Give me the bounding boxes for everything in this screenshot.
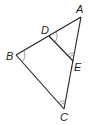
angle-mark-c-outer — [59, 101, 66, 103]
triangle-diagram: A B C D E — [0, 0, 89, 125]
label-b: B — [6, 50, 13, 62]
segment-ab — [16, 17, 81, 55]
angle-mark-d — [55, 32, 57, 42]
label-d: D — [41, 24, 49, 36]
angle-mark-b — [22, 51, 25, 62]
label-e: E — [74, 61, 82, 73]
angle-mark-e-outer — [68, 53, 75, 55]
stray-dot — [83, 62, 84, 63]
segment-bc — [16, 55, 64, 109]
label-a: A — [75, 3, 83, 15]
label-c: C — [60, 111, 68, 123]
